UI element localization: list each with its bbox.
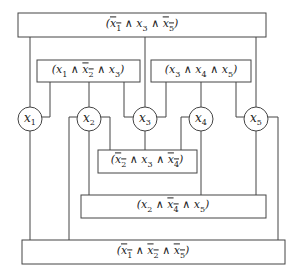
clause-label-6: (x1 ∧ x2 ∧ x5): [117, 244, 190, 259]
variable-label-x2: x2: [83, 111, 95, 127]
diagram-canvas: [0, 0, 297, 277]
clause-label-2: (x1 ∧ x2 ∧ x3): [52, 63, 125, 78]
variable-label-x5: x5: [250, 111, 262, 127]
clause-label-1: (x1 ∧ x3 ∧ x5): [106, 17, 179, 32]
clause-label-4: (x2 ∧ x3 ∧ x4): [111, 153, 184, 168]
variable-label-x3: x3: [139, 111, 151, 127]
variable-label-x4: x4: [195, 111, 207, 127]
clause-boxes: [18, 13, 285, 264]
variable-label-x1: x1: [24, 111, 36, 127]
clause-label-5: (x2 ∧ x4 ∧ x5): [137, 198, 210, 213]
clause-label-3: (x3 ∧ x4 ∧ x5): [165, 63, 238, 78]
